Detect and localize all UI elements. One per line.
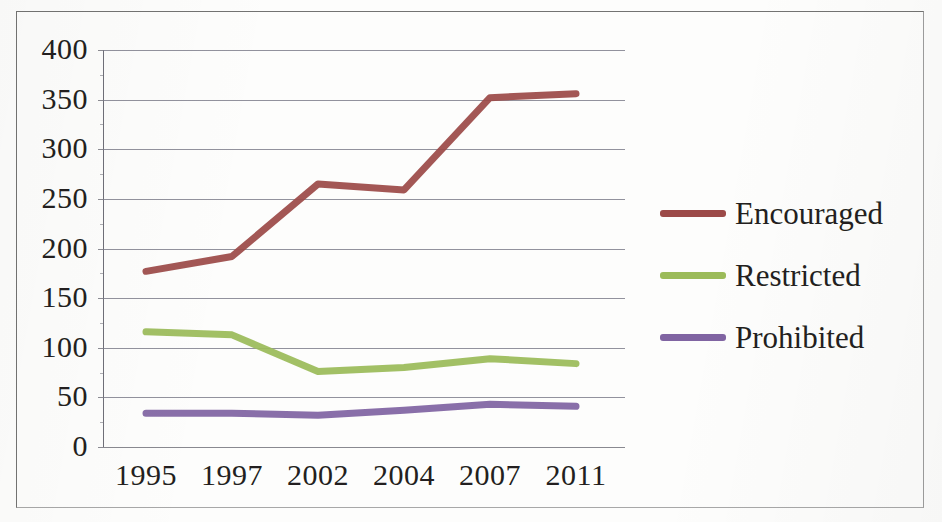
- gridline: [103, 50, 625, 51]
- legend-item: Restricted: [660, 244, 930, 306]
- y-axis-minor-tick-mark: [100, 75, 103, 76]
- x-axis-tick-label: 1997: [201, 460, 263, 490]
- x-axis-tick-label: 2002: [287, 460, 349, 490]
- plot-area: [103, 50, 625, 447]
- x-axis-tick-label: 2004: [373, 460, 435, 490]
- y-axis-minor-tick-mark: [100, 273, 103, 274]
- gridline: [103, 249, 625, 250]
- y-axis-minor-tick-mark: [100, 224, 103, 225]
- legend-label: Prohibited: [735, 322, 864, 353]
- y-axis-tick-label: 200: [0, 233, 88, 263]
- x-axis-tick-label: 1995: [115, 460, 177, 490]
- x-axis-tick-label: 2011: [546, 460, 607, 490]
- x-axis-label-group: 199519972002200420072011: [103, 460, 625, 506]
- legend-label: Restricted: [735, 260, 861, 291]
- y-axis-tick-label: 400: [0, 34, 88, 64]
- gridline: [103, 100, 625, 101]
- y-axis-tick-label: 0: [0, 431, 88, 461]
- x-axis-tick-label: 2007: [459, 460, 521, 490]
- legend-color-swatch: [660, 334, 726, 341]
- gridline: [103, 149, 625, 150]
- y-axis-tick-label: 300: [0, 133, 88, 163]
- legend-label: Encouraged: [735, 198, 883, 229]
- gridline: [103, 298, 625, 299]
- y-axis-tick-mark: [98, 298, 103, 299]
- gridline: [103, 348, 625, 349]
- gridline: [103, 199, 625, 200]
- legend-color-swatch: [660, 272, 726, 279]
- y-axis-tick-label: 100: [0, 332, 88, 362]
- gridline: [103, 447, 625, 448]
- chart-figure: 400350300250200150100500 199519972002200…: [0, 0, 942, 522]
- y-axis-tick-mark: [98, 50, 103, 51]
- legend-item: Encouraged: [660, 182, 930, 244]
- y-axis-tick-mark: [98, 100, 103, 101]
- y-axis-tick-label: 350: [0, 84, 88, 114]
- y-axis-tick-label: 50: [0, 381, 88, 411]
- gridline: [103, 397, 625, 398]
- y-axis-tick-mark: [98, 348, 103, 349]
- y-axis-tick-mark: [98, 397, 103, 398]
- y-axis-minor-tick-mark: [100, 422, 103, 423]
- y-axis-tick-mark: [98, 149, 103, 150]
- y-axis-label-group: 400350300250200150100500: [0, 0, 88, 522]
- y-axis-tick-mark: [98, 199, 103, 200]
- y-axis-minor-tick-mark: [100, 174, 103, 175]
- y-axis-tick-label: 250: [0, 183, 88, 213]
- legend-item: Prohibited: [660, 306, 930, 368]
- y-axis-minor-tick-mark: [100, 124, 103, 125]
- y-axis-minor-tick-mark: [100, 323, 103, 324]
- y-axis-tick-mark: [98, 249, 103, 250]
- chart-legend: EncouragedRestrictedProhibited: [660, 182, 930, 368]
- y-axis-tick-label: 150: [0, 282, 88, 312]
- y-axis-minor-tick-mark: [100, 373, 103, 374]
- y-axis-tick-mark: [98, 447, 103, 448]
- legend-color-swatch: [660, 210, 726, 217]
